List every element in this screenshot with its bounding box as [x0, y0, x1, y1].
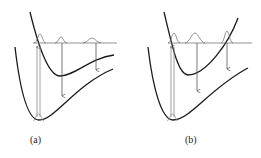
wavepacket	[83, 38, 101, 43]
wavepacket	[55, 37, 67, 43]
upper-potential-curve	[30, 12, 114, 76]
lower-potential-curve	[15, 47, 113, 120]
panel-a	[15, 12, 117, 121]
wavepacket	[185, 33, 205, 43]
panel-label-a: (a)	[30, 134, 41, 145]
lower-potential-curve	[148, 47, 248, 120]
panel-label-b: (b)	[185, 134, 197, 145]
panel-b	[148, 12, 252, 121]
